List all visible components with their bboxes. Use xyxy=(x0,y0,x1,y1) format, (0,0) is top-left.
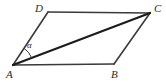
vertex-label-b: B xyxy=(111,69,118,80)
polygon-edges xyxy=(13,12,150,65)
side-AB xyxy=(13,64,114,65)
angle-label-alpha: α xyxy=(27,41,32,50)
vertex-label-c: C xyxy=(154,3,161,14)
geometry-figure: D C A B α xyxy=(0,0,166,84)
diagonal-AC xyxy=(13,13,150,65)
side-CD xyxy=(48,12,150,13)
side-DA xyxy=(13,12,48,65)
figure-canvas xyxy=(0,0,166,84)
vertex-label-a: A xyxy=(6,69,13,80)
vertex-label-d: D xyxy=(35,3,43,14)
